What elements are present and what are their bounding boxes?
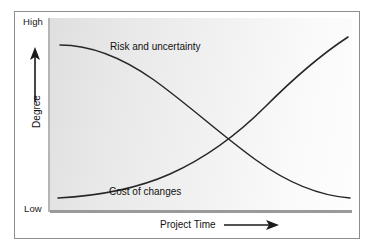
plot-area: Risk and uncertainty Cost of changes bbox=[50, 18, 352, 212]
figure-container: Risk and uncertainty Cost of changes Hig… bbox=[0, 0, 372, 252]
x-axis-line bbox=[50, 210, 352, 213]
cost-of-changes-label: Cost of changes bbox=[109, 186, 181, 197]
risk-and-uncertainty-label: Risk and uncertainty bbox=[110, 41, 201, 52]
x-axis-title-group: Project Time bbox=[160, 219, 280, 230]
x-axis-arrow-icon bbox=[224, 220, 280, 230]
y-tick-low: Low bbox=[24, 203, 42, 214]
curves-svg bbox=[50, 18, 352, 212]
x-axis-title: Project Time bbox=[160, 219, 216, 230]
y-tick-high: High bbox=[23, 16, 43, 27]
y-axis-title: Degree bbox=[31, 74, 42, 150]
